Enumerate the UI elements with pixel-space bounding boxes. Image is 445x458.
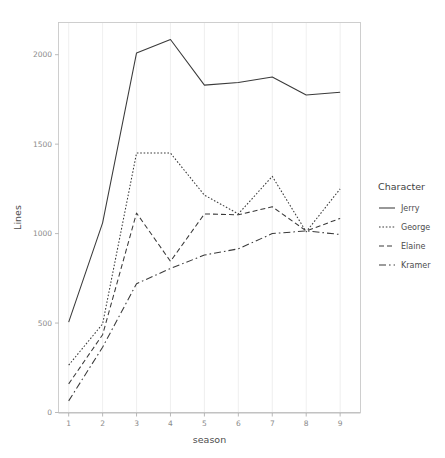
x-tick-label-8: 8 [304,419,309,428]
x-tick-label-4: 4 [168,419,173,428]
x-tick-label-7: 7 [270,419,275,428]
y-tick-label-1500: 1500 [33,140,52,149]
legend-item-george[interactable]: George [379,223,430,232]
x-axis: 123456789 [59,413,361,428]
x-tick-label-6: 6 [236,419,241,428]
legend-item-elaine[interactable]: Elaine [379,242,425,251]
legend-item-jerry[interactable]: Jerry [379,204,420,213]
legend-item-kramer[interactable]: Kramer [379,261,431,270]
legend-label-elaine: Elaine [401,242,425,251]
x-tick-label-3: 3 [134,419,139,428]
gridlines [69,23,340,413]
chart-svg: 0500100015002000 123456789 Lines season … [0,0,445,458]
y-tick-label-1000: 1000 [33,229,52,238]
x-tick-label-2: 2 [100,419,105,428]
x-axis-title: season [193,434,226,445]
legend-label-kramer: Kramer [401,261,431,270]
y-axis-title: Lines [12,205,23,230]
y-tick-label-500: 500 [38,319,53,328]
x-tick-label-9: 9 [338,419,343,428]
x-tick-label-1: 1 [66,419,71,428]
x-tick-label-5: 5 [202,419,207,428]
legend-label-george: George [401,223,430,232]
legend-title: Character [378,181,425,192]
y-tick-label-0: 0 [47,408,52,417]
y-axis: 0500100015002000 [33,50,59,417]
legend: CharacterJerryGeorgeElaineKramer [378,181,431,270]
legend-label-jerry: Jerry [400,204,420,213]
line-chart: 0500100015002000 123456789 Lines season … [0,0,445,458]
y-tick-label-2000: 2000 [33,50,52,59]
